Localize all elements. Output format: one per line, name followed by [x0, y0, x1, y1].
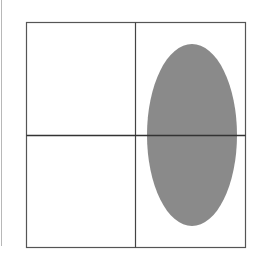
- quadrant-diagram: [0, 0, 260, 266]
- diagram-canvas: [0, 0, 260, 266]
